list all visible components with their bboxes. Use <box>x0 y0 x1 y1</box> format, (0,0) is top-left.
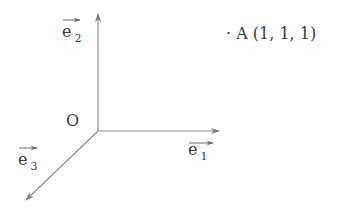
vector-e2-base: e <box>62 22 71 41</box>
vector-e2-subscript: 2 <box>74 32 81 45</box>
vector-e3-subscript: 3 <box>30 160 37 173</box>
point-a-label: · A (1, 1, 1) <box>226 24 316 43</box>
vector-label-e1: e1 <box>188 140 207 159</box>
vector-e1-subscript: 1 <box>200 150 207 163</box>
vector-label-e2: e2 <box>62 22 81 41</box>
origin-label-text: O <box>66 111 79 130</box>
vector-e3-base: e <box>18 150 27 169</box>
vector-e1-base: e <box>188 140 197 159</box>
point-coords: (1, 1, 1) <box>253 24 316 43</box>
vector-label-e3: e3 <box>18 150 37 169</box>
point-name: A <box>236 24 248 43</box>
point-marker: · <box>226 24 231 43</box>
origin-label: O <box>66 111 79 130</box>
diagram-canvas: O e2 e3 e1 · A (1, 1, 1) <box>0 0 338 212</box>
